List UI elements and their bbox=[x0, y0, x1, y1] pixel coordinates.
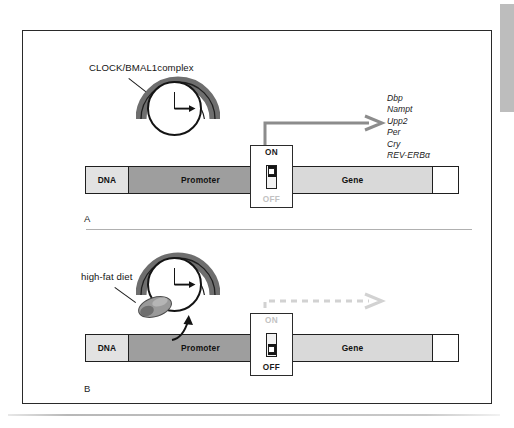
figure-root: CLOCK/BMAL1complex DbpNamptUpp2PerCryREV… bbox=[0, 0, 514, 428]
mouse-icon bbox=[135, 293, 175, 321]
switch-lever-down bbox=[268, 344, 277, 355]
transcription-switch-off[interactable]: ON OFF bbox=[250, 313, 293, 376]
switch-on-label-a: ON bbox=[265, 149, 278, 157]
dna-segment-label-a: DNA bbox=[85, 166, 129, 194]
page-edge-rule-bottom bbox=[8, 414, 500, 416]
high-fat-diet-leader-line bbox=[114, 287, 136, 303]
switch-toggle-b[interactable] bbox=[266, 333, 277, 357]
target-gene-list: DbpNamptUpp2PerCryREV-ERBα bbox=[387, 93, 430, 162]
panel-divider-line bbox=[86, 229, 472, 230]
switch-lever-tip-b bbox=[268, 346, 275, 353]
target-gene-item: Dbp bbox=[387, 93, 430, 104]
target-gene-item: Upp2 bbox=[387, 116, 430, 127]
figure-border: CLOCK/BMAL1complex DbpNamptUpp2PerCryREV… bbox=[22, 30, 492, 404]
clock-hand-horizontal-b bbox=[167, 277, 197, 293]
transcription-switch-on[interactable]: ON OFF bbox=[250, 145, 293, 208]
clock-hand-horizontal-a bbox=[167, 101, 197, 117]
switch-lever-up bbox=[268, 166, 277, 177]
page-edge-artifact-right bbox=[500, 4, 514, 112]
target-gene-item: Per bbox=[387, 127, 430, 138]
dna-tail-segment-a bbox=[433, 166, 459, 194]
high-fat-diet-label: high-fat diet bbox=[81, 271, 132, 282]
dna-segment-label-b: DNA bbox=[85, 334, 129, 362]
switch-on-label-b: ON bbox=[265, 317, 278, 325]
transcription-arrow-active bbox=[261, 113, 387, 147]
target-gene-item: REV-ERBα bbox=[387, 150, 430, 161]
gene-segment-b: Gene bbox=[273, 334, 433, 362]
target-gene-item: Cry bbox=[387, 139, 430, 150]
switch-lever-tip-a bbox=[268, 168, 275, 175]
panel-label-a: A bbox=[84, 213, 91, 224]
dna-tail-segment-b bbox=[433, 334, 459, 362]
switch-toggle-a[interactable] bbox=[266, 165, 277, 189]
target-gene-item: Nampt bbox=[387, 104, 430, 115]
panel-label-b: B bbox=[84, 383, 91, 394]
gene-segment-a: Gene bbox=[273, 166, 433, 194]
switch-off-label-a: OFF bbox=[263, 196, 281, 204]
switch-off-label-b: OFF bbox=[263, 364, 281, 372]
